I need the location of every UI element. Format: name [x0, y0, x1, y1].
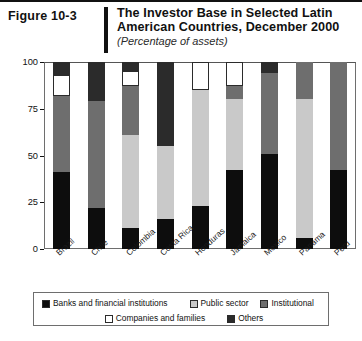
legend-swatch-companies-icon: [105, 315, 113, 323]
y-tick-mark: [40, 62, 44, 63]
legend-item-institutional: Institutional: [260, 299, 313, 308]
bar-segment: [88, 101, 105, 208]
bar-segment: [226, 86, 243, 99]
bar-stack: [88, 62, 105, 249]
legend-label-public-sector: Public sector: [201, 299, 249, 308]
bar-segment: [226, 99, 243, 170]
legend-item-public-sector: Public sector: [190, 299, 249, 308]
bar-segment: [296, 99, 313, 237]
bar-group: [157, 62, 174, 249]
legend-swatch-others-icon: [227, 315, 235, 323]
bar-segment: [53, 96, 70, 173]
legend-label-others: Others: [238, 314, 263, 323]
figure-title: The Investor Base in Selected Latin Amer…: [117, 6, 356, 34]
bar-segment: [261, 154, 278, 249]
bar-segment: [88, 62, 105, 101]
bar-segment: [296, 62, 313, 99]
bar-segment: [157, 62, 174, 146]
y-tick-label: 75: [28, 104, 38, 114]
bar-stack: [330, 62, 347, 249]
y-tick-label: 100: [22, 57, 38, 67]
bar-segment: [122, 62, 139, 71]
bar-stack: [296, 62, 313, 249]
bar-segment: [53, 75, 70, 96]
y-tick-label: 50: [28, 151, 38, 161]
legend-item-others: Others: [227, 314, 263, 323]
figure-number: Figure 10-3: [0, 6, 104, 23]
bar-segment: [157, 146, 174, 219]
header-divider-rule: [104, 7, 108, 53]
legend-swatch-institutional-icon: [260, 300, 268, 308]
x-axis-labels: BrazilChileColombiaCosta RicaHondurasJam…: [0, 250, 362, 292]
bar-stack: [157, 62, 174, 249]
legend-row-primary: Banks and financial institutions Public …: [40, 297, 322, 310]
bar-stack: [53, 62, 70, 249]
figure-subtitle: (Percentage of assets): [117, 35, 356, 48]
y-axis: 0255075100: [14, 58, 38, 254]
chart-plot-area: 0255075100: [0, 58, 362, 254]
bar-group: [53, 62, 70, 249]
bar-group: [296, 62, 313, 249]
figure-header: Figure 10-3 The Investor Base in Selecte…: [0, 0, 362, 56]
bar-stack: [192, 62, 209, 249]
y-tick-label: 25: [28, 197, 38, 207]
bar-segment: [226, 62, 243, 86]
legend-item-banks: Banks and financial institutions: [42, 299, 168, 308]
legend-label-banks: Banks and financial institutions: [53, 299, 168, 308]
legend-label-institutional: Institutional: [271, 299, 313, 308]
bar-segment: [261, 73, 278, 153]
legend-row-secondary: Companies and families Others: [40, 312, 322, 325]
y-tick-mark: [40, 156, 44, 157]
bar-segment: [192, 62, 209, 90]
legend-swatch-public-sector-icon: [190, 300, 198, 308]
bar-stack: [122, 62, 139, 249]
bar-stack: [261, 62, 278, 249]
stacked-bars-layer: [44, 62, 356, 249]
bar-group: [88, 62, 105, 249]
figure-heading-text: The Investor Base in Selected Latin Amer…: [117, 6, 362, 48]
chart-legend: Banks and financial institutions Public …: [33, 292, 329, 326]
bar-stack: [226, 62, 243, 249]
bar-segment: [122, 86, 139, 135]
y-tick-mark: [40, 109, 44, 110]
bar-group: [330, 62, 347, 249]
legend-label-companies: Companies and families: [116, 314, 205, 323]
bar-group: [261, 62, 278, 249]
legend-swatch-banks-icon: [42, 300, 50, 308]
bar-segment: [192, 90, 209, 206]
bar-group: [122, 62, 139, 249]
bar-segment: [122, 135, 139, 229]
legend-item-companies: Companies and families: [105, 314, 205, 323]
bar-segment: [261, 62, 278, 73]
bar-group: [226, 62, 243, 249]
bar-group: [192, 62, 209, 249]
y-tick-mark: [40, 202, 44, 203]
bar-segment: [53, 62, 70, 75]
bar-segment: [122, 71, 139, 86]
bar-segment: [330, 62, 347, 170]
